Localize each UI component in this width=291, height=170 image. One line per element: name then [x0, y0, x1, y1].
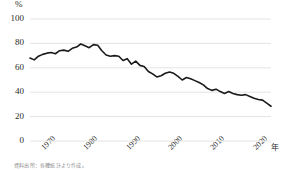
- chart-source-caption: 資料出所：各種統計より作成。: [14, 161, 87, 168]
- data-series-line: [30, 44, 271, 106]
- plot-area: [0, 0, 291, 170]
- gridlines: [30, 19, 271, 141]
- line-chart: % 年 100806040200 19701980199020002010202…: [0, 0, 291, 170]
